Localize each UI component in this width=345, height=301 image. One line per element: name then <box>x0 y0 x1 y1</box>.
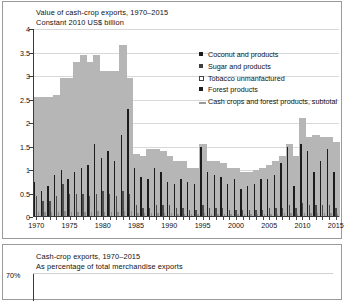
y-tick-label: 0.5 <box>4 189 30 198</box>
legend-line-marker-icon <box>199 102 206 104</box>
y-tick-label: 1.5 <box>4 142 30 151</box>
y-tick <box>29 76 33 77</box>
figure-page: Value of cash-crop exports, 1970–2015 Co… <box>0 0 345 301</box>
x-tick-label: 1985 <box>128 221 144 230</box>
gridline <box>33 29 339 30</box>
legend-label: Sugar and products <box>208 62 341 72</box>
legend-marker <box>199 50 208 56</box>
y-tick <box>29 170 33 171</box>
legend-label: Coconut and products <box>208 50 341 60</box>
y-tick <box>29 194 33 195</box>
legend-marker <box>199 74 208 81</box>
legend-label: Cash crops and forest products, subtotal <box>208 97 341 107</box>
bottom-chart-title: Cash-crop exports, 1970–2015 <box>36 252 140 261</box>
legend-square-icon <box>199 87 203 91</box>
y-tick-label: 2 <box>4 119 30 128</box>
legend-item[interactable]: Forest products <box>199 85 341 95</box>
x-tick-label: 1970 <box>28 221 44 230</box>
y-tick-label: 0 <box>4 213 30 222</box>
x-tick-label: 2000 <box>228 221 244 230</box>
legend-item[interactable]: Sugar and products <box>199 62 341 72</box>
top-chart-title: Value of cash-crop exports, 1970–2015 <box>36 8 168 17</box>
x-axis-line <box>33 216 339 217</box>
top-chart-subtitle: Constant 2010 US$ billion <box>36 18 124 27</box>
legend-item[interactable]: Coconut and products <box>199 50 341 60</box>
y-tick <box>29 29 33 30</box>
y-tick <box>29 217 33 218</box>
x-tick-label: 1980 <box>95 221 111 230</box>
legend-item[interactable]: Cash crops and forest products, subtotal <box>199 97 341 107</box>
bottom-chart-subtitle: As percentage of total merchandise expor… <box>36 262 183 271</box>
legend-label: Forest products <box>208 85 341 95</box>
bottom-y-axis-line <box>33 273 34 301</box>
y-tick-label: 2.5 <box>4 95 30 104</box>
chart-legend: Coconut and productsSugar and productsTo… <box>199 50 341 109</box>
y-axis-labels: 00.511.522.533.54 <box>3 29 30 217</box>
legend-marker <box>199 97 208 104</box>
x-tick-label: 2015 <box>328 221 344 230</box>
x-axis-labels: 1970197519801985199019952000200520102015 <box>33 220 339 232</box>
bottom-y-axis-top-label: 70% <box>6 271 20 280</box>
legend-label: Tobacco unmanfactured <box>208 74 341 84</box>
y-tick <box>29 123 33 124</box>
y-tick <box>29 53 33 54</box>
legend-marker <box>199 62 208 68</box>
y-axis-line <box>33 29 34 217</box>
legend-square-icon <box>199 64 203 68</box>
top-chart-panel: Value of cash-crop exports, 1970–2015 Co… <box>2 1 342 239</box>
x-tick-label: 1975 <box>62 221 78 230</box>
y-tick-label: 3 <box>4 72 30 81</box>
y-tick-label: 4 <box>4 25 30 34</box>
x-tick-label: 1995 <box>195 221 211 230</box>
y-tick-label: 1 <box>4 166 30 175</box>
y-tick <box>29 100 33 101</box>
legend-hollow-square-icon <box>199 76 204 81</box>
x-tick-label: 2005 <box>261 221 277 230</box>
legend-marker <box>199 85 208 91</box>
x-tick-label: 1990 <box>161 221 177 230</box>
legend-item[interactable]: Tobacco unmanfactured <box>199 74 341 84</box>
y-tick <box>29 147 33 148</box>
legend-square-icon <box>199 52 203 56</box>
bottom-chart-panel: Cash-crop exports, 1970–2015 As percenta… <box>2 244 342 300</box>
y-tick-label: 3.5 <box>4 48 30 57</box>
bottom-top-gridline <box>33 273 333 274</box>
x-tick-label: 2010 <box>294 221 310 230</box>
